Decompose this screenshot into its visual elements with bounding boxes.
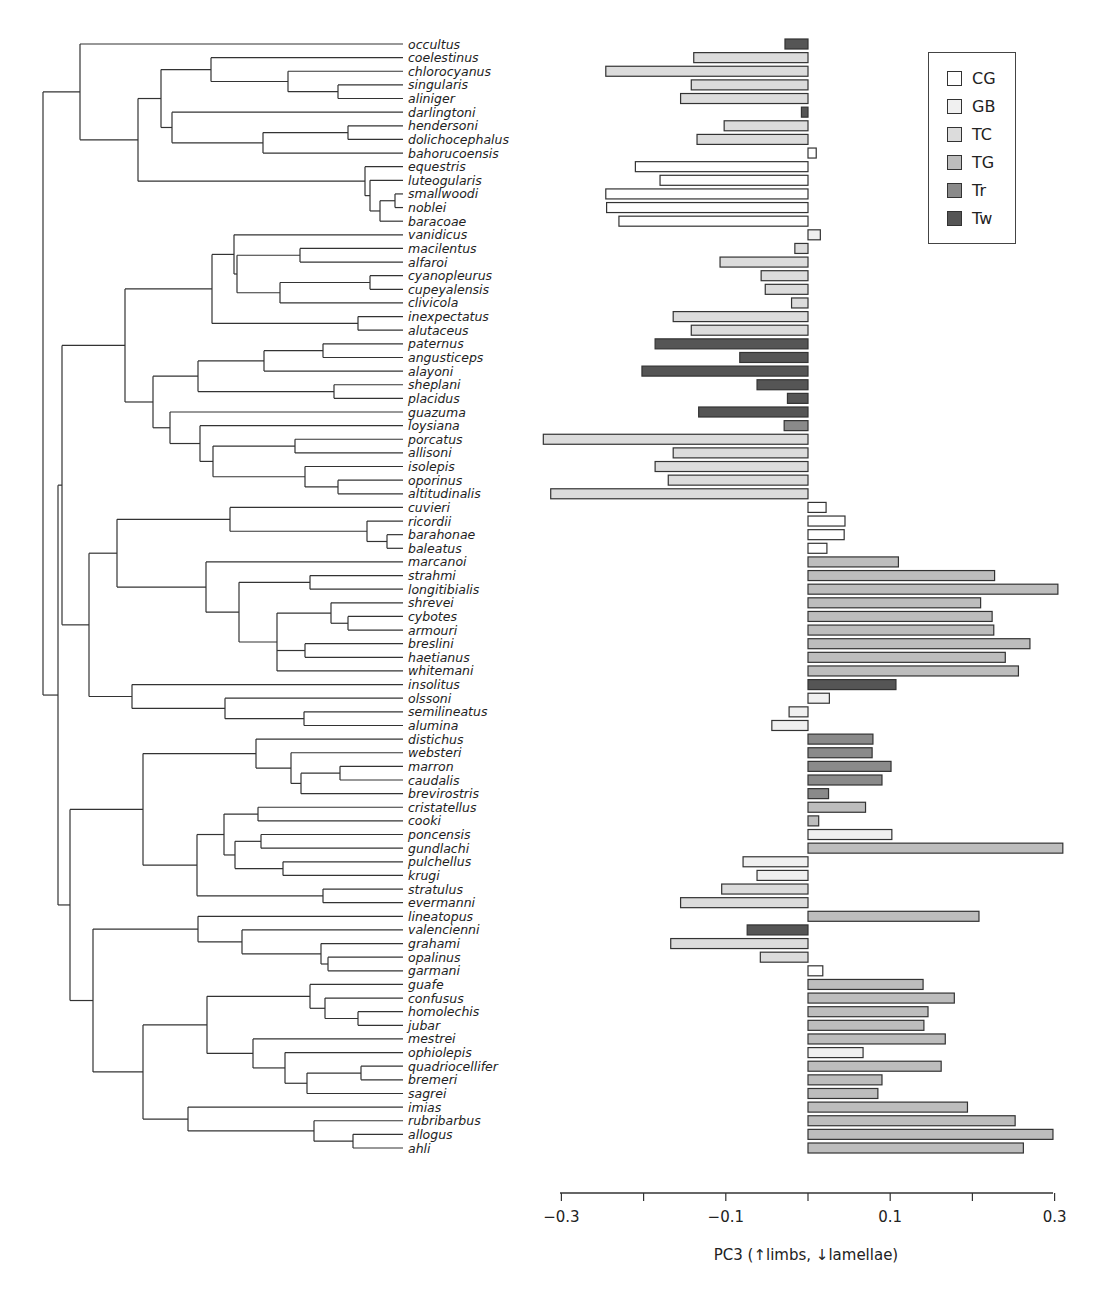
- bar-equestris: [635, 162, 808, 172]
- bar-oporinus: [668, 475, 808, 485]
- bar-clivicola: [792, 298, 808, 308]
- legend-label-tr: Tr: [972, 181, 986, 200]
- bar-cyanopleurus: [761, 271, 808, 281]
- bar-krugi: [757, 870, 808, 880]
- bar-quadriocellifer: [808, 1061, 941, 1071]
- legend-label-tw: Tw: [972, 209, 992, 228]
- bar-paternus: [655, 339, 808, 349]
- bar-barahonae: [808, 530, 844, 540]
- legend-item-cg: CG: [947, 67, 996, 89]
- bar-alutaceus: [691, 325, 808, 335]
- bar-ricordii: [808, 516, 845, 526]
- bar-sagrei: [808, 1088, 878, 1098]
- bar-baracoae: [619, 216, 808, 226]
- bar-bremeri: [808, 1075, 882, 1085]
- bar-distichus: [808, 734, 873, 744]
- bar-breslini: [808, 639, 1030, 649]
- bar-stratulus: [722, 884, 808, 894]
- bar-dolichocephalus: [697, 134, 808, 144]
- bar-brevirostris: [808, 789, 829, 799]
- bar-valencienni: [747, 925, 808, 935]
- bar-gundlachi: [808, 843, 1063, 853]
- bar-strahmi: [808, 571, 995, 581]
- bar-angusticeps: [740, 352, 808, 362]
- bar-cupeyalensis: [765, 284, 808, 294]
- x-tick-label: 0.1: [878, 1208, 902, 1226]
- bar-marcanoi: [808, 557, 898, 567]
- bar-semilineatus: [789, 707, 808, 717]
- legend-item-tw: Tw: [947, 207, 992, 229]
- bar-ophiolepis: [808, 1048, 863, 1058]
- legend-swatch-gb: [947, 99, 962, 114]
- bar-mestrei: [808, 1034, 945, 1044]
- legend-item-tg: TG: [947, 151, 994, 173]
- bar-rubribarbus: [808, 1116, 1015, 1126]
- bar-guafe: [808, 979, 923, 989]
- legend-label-tc: TC: [972, 125, 992, 144]
- bar-insolitus: [808, 680, 896, 690]
- bar-smallwoodi: [606, 189, 808, 199]
- x-axis: −0.3−0.10.10.3: [543, 1193, 1066, 1226]
- legend-item-tc: TC: [947, 123, 992, 145]
- bar-cristatellus: [808, 802, 866, 812]
- bar-homolechis: [808, 1007, 928, 1017]
- bar-allisoni: [673, 448, 808, 458]
- bar-aliniger: [681, 94, 808, 104]
- phylogenetic-tree: [43, 44, 403, 1148]
- bar-darlingtoni: [801, 107, 808, 117]
- bar-vanidicus: [808, 230, 820, 240]
- legend-swatch-cg: [947, 71, 962, 86]
- bar-websteri: [808, 748, 872, 758]
- legend-label-tg: TG: [972, 153, 994, 172]
- bar-placidus: [787, 393, 808, 403]
- bar-inexpectatus: [673, 312, 808, 322]
- bar-ahli: [808, 1143, 1023, 1153]
- bar-macilentus: [795, 243, 808, 253]
- bar-garmani: [808, 966, 823, 976]
- bar-isolepis: [655, 462, 808, 472]
- legend-label-cg: CG: [972, 69, 996, 88]
- bar-porcatus: [543, 434, 808, 444]
- bar-alayoni: [642, 366, 808, 376]
- legend-item-tr: Tr: [947, 179, 986, 201]
- legend: CG GB TC TG Tr Tw: [928, 52, 1016, 244]
- bar-haetianus: [808, 652, 1005, 662]
- bar-whitemani: [808, 666, 1018, 676]
- bar-occultus: [785, 39, 808, 49]
- bar-alfaroi: [720, 257, 808, 267]
- bar-caudalis: [808, 775, 882, 785]
- bar-guazuma: [699, 407, 808, 417]
- x-tick-label: −0.3: [543, 1208, 579, 1226]
- x-axis-title: PC3 (↑limbs, ↓lamellae): [714, 1246, 898, 1264]
- bar-marron: [808, 761, 891, 771]
- bar-noblei: [607, 203, 808, 213]
- bar-imias: [808, 1102, 967, 1112]
- bar-evermanni: [681, 898, 808, 908]
- x-tick-label: −0.1: [708, 1208, 744, 1226]
- bar-longitibialis: [808, 584, 1058, 594]
- bar-coelestinus: [694, 53, 808, 63]
- bar-lineatopus: [808, 911, 979, 921]
- legend-label-gb: GB: [972, 97, 995, 116]
- bar-grahami: [671, 939, 808, 949]
- bar-shrevei: [808, 598, 981, 608]
- bar-jubar: [808, 1020, 924, 1030]
- bar-luteogularis: [660, 175, 808, 185]
- bar-altitudinalis: [551, 489, 808, 499]
- bar-singularis: [691, 80, 808, 90]
- bar-sheplani: [757, 380, 808, 390]
- species-label: ahli: [408, 1141, 431, 1156]
- bar-hendersoni: [724, 121, 808, 131]
- bar-olssoni: [808, 693, 829, 703]
- bar-cuvieri: [808, 502, 826, 512]
- bar-cybotes: [808, 611, 992, 621]
- bar-confusus: [808, 993, 954, 1003]
- bar-allogus: [808, 1129, 1053, 1139]
- legend-swatch-tg: [947, 155, 962, 170]
- bar-cooki: [808, 816, 819, 826]
- legend-swatch-tc: [947, 127, 962, 142]
- bar-bahorucoensis: [808, 148, 816, 158]
- bar-loysiana: [784, 421, 808, 431]
- legend-swatch-tr: [947, 183, 962, 198]
- legend-item-gb: GB: [947, 95, 995, 117]
